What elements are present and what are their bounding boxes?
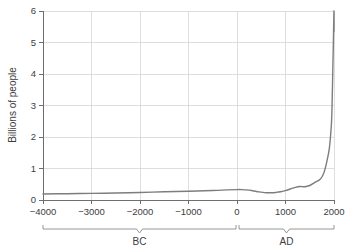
y-tick-label-4: 4 — [31, 68, 36, 79]
y-tick-label-3: 3 — [31, 100, 36, 111]
y-tick-label-5: 5 — [31, 37, 36, 48]
y-tick-label-2: 2 — [31, 131, 36, 142]
x-tick-label--3000: −3000 — [78, 206, 105, 217]
brace-ad-label: AD — [280, 236, 294, 247]
x-tick-label--4000: −4000 — [30, 206, 57, 217]
y-tick-label-1: 1 — [31, 163, 36, 174]
x-tick-label--1000: −1000 — [175, 206, 202, 217]
x-tick-label-1000: 1000 — [275, 206, 296, 217]
y-tick-label-6: 6 — [31, 5, 36, 16]
x-tick-label--2000: −2000 — [127, 206, 154, 217]
y-tick-label-0: 0 — [31, 194, 36, 205]
y-axis-title: Billions of people — [7, 67, 18, 143]
x-tick-label-2000: 2000 — [323, 206, 344, 217]
population-chart-figure: 0123456 −4000−3000−2000−1000010002000 Bi… — [0, 0, 349, 252]
chart-canvas: 0123456 −4000−3000−2000−1000010002000 Bi… — [0, 0, 349, 252]
x-tick-label-0: 0 — [234, 206, 239, 217]
brace-bc-label: BC — [133, 236, 147, 247]
